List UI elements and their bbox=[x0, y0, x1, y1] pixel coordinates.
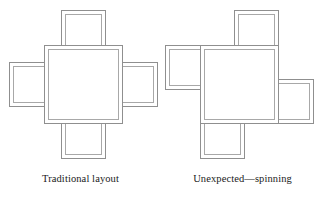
center-panel bbox=[200, 45, 279, 124]
spinning-caption: Unexpected—spinning bbox=[162, 172, 323, 185]
traditional-diagram bbox=[0, 0, 161, 168]
diagram-page: Traditional layout Unexpected—spinning bbox=[0, 0, 323, 199]
spinning-diagram bbox=[162, 0, 323, 168]
center-panel-inner-frame bbox=[48, 49, 119, 120]
figure-spinning: Unexpected—spinning bbox=[162, 0, 323, 199]
figure-traditional: Traditional layout bbox=[0, 0, 161, 199]
center-panel bbox=[44, 45, 123, 124]
traditional-caption: Traditional layout bbox=[0, 172, 161, 185]
center-panel-inner-frame bbox=[204, 49, 275, 120]
